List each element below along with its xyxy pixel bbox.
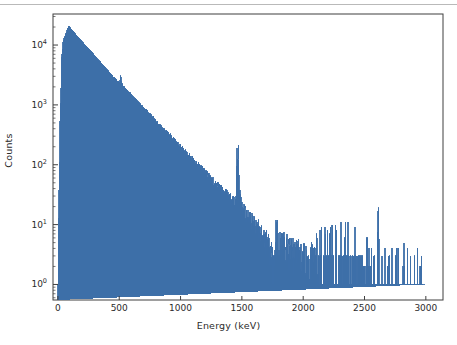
x-tick-label: 0 — [55, 303, 61, 313]
x-tick-label: 500 — [111, 303, 128, 313]
y-tick-label: 104 — [5, 40, 47, 50]
gamma-spectrum-figure: 100101102103104 Energy (keV) Counts 0500… — [0, 0, 457, 345]
x-tick-label: 2500 — [353, 303, 376, 313]
y-tick-label: 101 — [5, 220, 47, 230]
spectrum-plot-canvas — [0, 0, 457, 345]
x-axis-title: Energy (keV) — [0, 320, 457, 331]
y-tick-label: 103 — [5, 100, 47, 110]
x-tick-label: 2000 — [292, 303, 315, 313]
x-tick-label: 3000 — [414, 303, 437, 313]
y-axis-title: Counts — [3, 121, 14, 181]
y-tick-label: 100 — [5, 279, 47, 289]
x-tick-label: 1000 — [169, 303, 192, 313]
x-tick-label: 1500 — [230, 303, 253, 313]
